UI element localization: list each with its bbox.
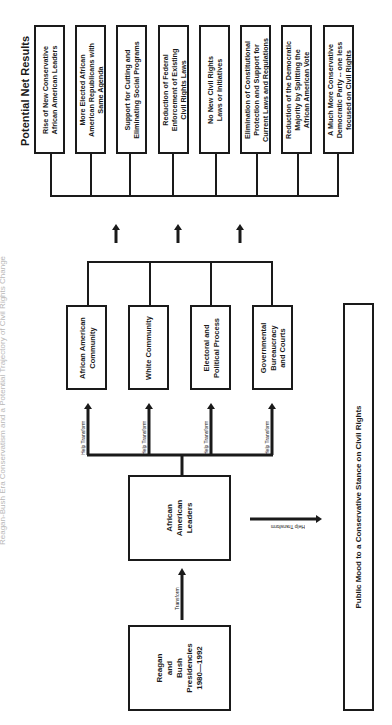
result-box: A Much More Conservative Democratic Part… — [323, 25, 354, 154]
result-box: Reduction of the Democratic Majority by … — [281, 25, 312, 154]
result-box: No New Civil Rights Laws or Initiatives — [199, 25, 230, 154]
help-transform-label: Help Transform — [203, 421, 209, 455]
result-text: Protection and Support for — [251, 38, 260, 142]
leaders-text: Leaders — [185, 500, 195, 536]
result-text: Laws or Initiatives — [215, 56, 224, 124]
result-text: Current Laws and Regulations — [260, 38, 269, 142]
presidencies-text: and — [165, 643, 175, 692]
result-text: Support for Cutting and — [123, 41, 132, 138]
result-text: African American Leaders — [50, 45, 59, 134]
presidencies-text: Presidencies — [185, 643, 195, 692]
result-text: Elimination of Constitutional — [242, 38, 251, 142]
result-text: Reduction of Federal — [160, 48, 169, 131]
leaders-box: African American Leaders — [128, 475, 231, 561]
result-text: focused on Civil Rights — [343, 41, 352, 138]
result-text: Rise of New Conservative — [41, 45, 50, 134]
result-text: Enforcement of Existing — [169, 48, 178, 131]
presidencies-text: Reagan — [155, 643, 165, 692]
result-text: Civil Rights Laws — [178, 48, 187, 131]
target-text: Political Process — [211, 317, 221, 377]
result-text: No New Civil Rights — [206, 56, 215, 124]
target-text: Electoral and — [201, 317, 211, 377]
presidencies-box: Reagan and Bush Presidencies 1980—1992 — [128, 625, 231, 711]
help-transform-label-horizontal: Help Transform — [271, 524, 305, 530]
target-text: and Courts — [277, 322, 287, 372]
result-text: A Much More Conservative — [325, 41, 334, 138]
result-box: Elimination of Constitutional Protection… — [240, 25, 271, 154]
public-mood-box: Public Mood to a Conservative Stance on … — [343, 303, 374, 711]
target-box-electoral-process: Electoral and Political Process — [190, 305, 231, 390]
result-text: American Republicans with — [86, 43, 95, 137]
target-box-white-community: White Community — [128, 305, 169, 390]
presidencies-text: 1980—1992 — [195, 643, 205, 692]
result-text: Reduction of the Democratic — [283, 41, 292, 139]
target-text: Bureaucracy — [268, 322, 278, 372]
result-text: Democratic Party -- one less — [334, 41, 343, 138]
target-text: White Community — [144, 316, 154, 380]
target-text: Community — [87, 317, 97, 379]
help-transform-label: Help Transform — [141, 421, 147, 455]
transform-label: Transform — [174, 587, 180, 610]
help-transform-label: Help Transform — [80, 421, 86, 455]
result-text: Majority by Splitting the — [292, 41, 301, 139]
target-box-african-american-community: African American Community — [66, 305, 107, 390]
leaders-text: American — [175, 500, 185, 536]
target-text: African American — [77, 317, 87, 379]
presidencies-text: Bush — [175, 643, 185, 692]
public-mood-text: Public Mood to a Conservative Stance on … — [354, 405, 364, 608]
target-text: Governmental — [258, 322, 268, 372]
target-box-bureaucracy-courts: Governmental Bureaucracy and Courts — [252, 305, 293, 390]
result-text: More Elected African — [77, 43, 86, 137]
help-transform-label: Help Transform — [264, 421, 270, 455]
result-box: Reduction of Federal Enforcement of Exis… — [158, 25, 189, 154]
result-text: Same Agenda — [95, 43, 104, 137]
result-box: Rise of New Conservative African America… — [34, 25, 65, 154]
result-box: Support for Cutting and Eliminating Soci… — [116, 25, 147, 154]
leaders-text: African — [165, 500, 175, 536]
result-text: African American Vote — [301, 41, 310, 139]
result-text: Eliminating Social Programs — [132, 41, 141, 138]
result-box: More Elected African American Republican… — [75, 25, 106, 154]
